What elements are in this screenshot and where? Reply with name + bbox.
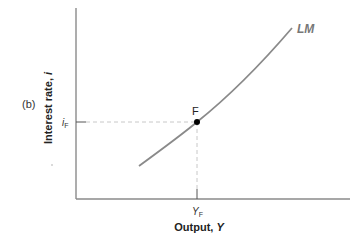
lm-chart: (b) Interest rate, i F LM iF YF Output, … bbox=[0, 0, 356, 238]
equilibrium-point-F bbox=[194, 119, 200, 125]
y-axis-title: Interest rate, i bbox=[42, 71, 54, 144]
x-axis-title: Output, Y bbox=[174, 221, 225, 233]
panel-label: (b) bbox=[22, 98, 35, 110]
point-label-F: F bbox=[192, 105, 199, 117]
stray-mark bbox=[51, 164, 52, 165]
y-tick-label-iF: iF bbox=[62, 117, 69, 129]
lm-curve-label: LM bbox=[297, 22, 315, 36]
lm-curve bbox=[139, 28, 292, 166]
x-tick-label-YF: YF bbox=[192, 206, 203, 218]
